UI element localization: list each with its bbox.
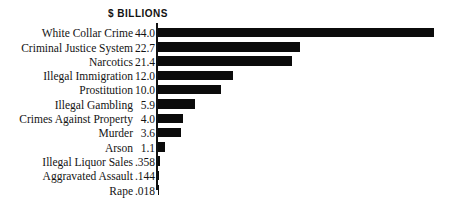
chart-title: $ BILLIONS [108, 8, 168, 19]
bar [158, 28, 434, 38]
bar-value-label: 3.6 [141, 127, 155, 139]
bar-category-label: Crimes Against Property [19, 113, 133, 125]
bar [158, 185, 159, 195]
bar-category-label: Illegal Immigration [43, 70, 133, 82]
bar [158, 156, 160, 166]
bar-row: Aggravated Assault.144 [0, 170, 457, 184]
bar-row: Illegal Liquor Sales.358 [0, 156, 457, 170]
bar-category-label: Illegal Liquor Sales [42, 156, 133, 168]
bar [158, 99, 195, 109]
bar-category-label: Illegal Gambling [55, 99, 133, 111]
bar [158, 142, 165, 152]
bar-value-label: .018 [135, 185, 155, 197]
bar-value-label: 5.9 [141, 99, 155, 111]
bar-value-label: 12.0 [135, 70, 155, 82]
bar-category-label: Aggravated Assault [43, 170, 133, 182]
bar-row: Rape.018 [0, 185, 457, 199]
bar-chart: $ BILLIONS White Collar Crime44.0Crimina… [0, 0, 457, 206]
bar-category-label: Prostitution [79, 84, 133, 96]
bar-value-label: 10.0 [135, 84, 155, 96]
bar-value-label: 4.0 [141, 113, 155, 125]
bar-category-label: Rape [109, 185, 133, 197]
bar-value-label: 22.7 [135, 42, 155, 54]
bar-category-label: Criminal Justice System [21, 42, 133, 54]
bar-category-label: Narcotics [89, 56, 133, 68]
bar-value-label: .144 [135, 170, 155, 182]
bar [158, 56, 292, 66]
bar-category-label: Murder [99, 127, 134, 139]
bar-row: Crimes Against Property4.0 [0, 113, 457, 127]
bar-row: Illegal Immigration12.0 [0, 70, 457, 84]
bar-category-label: Arson [105, 142, 133, 154]
bar [158, 171, 159, 181]
bar-row: Arson1.1 [0, 142, 457, 156]
bar-row: Criminal Justice System22.7 [0, 42, 457, 56]
bar [158, 114, 183, 124]
bar-row: White Collar Crime44.0 [0, 27, 457, 41]
plot-area: White Collar Crime44.0Criminal Justice S… [0, 23, 457, 191]
bar-value-label: .358 [135, 156, 155, 168]
bar-value-label: 1.1 [141, 142, 155, 154]
bar-row: Illegal Gambling5.9 [0, 99, 457, 113]
bar [158, 71, 233, 81]
bar-value-label: 44.0 [135, 27, 155, 39]
bar [158, 42, 300, 52]
bar-category-label: White Collar Crime [42, 27, 133, 39]
bar [158, 85, 221, 95]
bar-row: Prostitution10.0 [0, 84, 457, 98]
bar-row: Narcotics21.4 [0, 56, 457, 70]
bar-row: Murder3.6 [0, 127, 457, 141]
bar [158, 128, 181, 138]
bar-value-label: 21.4 [135, 56, 155, 68]
